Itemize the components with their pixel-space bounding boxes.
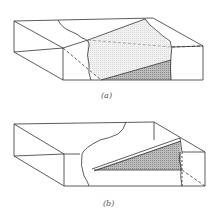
panel-a-block <box>14 18 203 80</box>
panel-b-label: (b) <box>103 199 114 208</box>
diagram-canvas: (a) (b) <box>0 0 220 211</box>
panel-b-block <box>14 122 205 186</box>
panel-a-label: (a) <box>101 91 112 100</box>
